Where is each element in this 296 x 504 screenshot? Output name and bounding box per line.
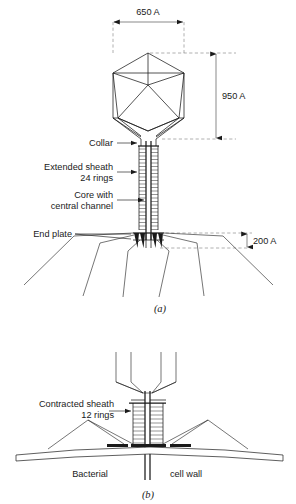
- label-end-plate: End plate: [33, 229, 131, 239]
- panel-b-caption: (b): [142, 489, 155, 501]
- label-cell-wall: cell wall: [170, 469, 202, 479]
- phage-collar: [138, 139, 159, 146]
- tail-fibers-b: [116, 352, 176, 393]
- label-extended-sheath-line1: Extended sheath: [44, 162, 113, 172]
- label-core-line2: central channel: [51, 201, 113, 211]
- label-end-plate-text: End plate: [33, 229, 72, 239]
- dimension-head-height-label: 950 A: [222, 91, 246, 101]
- dimension-head-width: 650 A: [114, 7, 183, 22]
- contracted-sheath: [133, 403, 163, 447]
- phage-figure: 650 A 950 A: [0, 0, 296, 504]
- sheath-rings-left: [139, 149, 146, 230]
- label-bacterial: Bacterial: [72, 469, 108, 479]
- baseplate-feet-b: [107, 444, 191, 447]
- label-contracted-sheath: Contracted sheath 12 rings: [39, 399, 131, 420]
- dimension-base-height-label: 200 A: [253, 236, 277, 246]
- label-contracted-sheath-line1: Contracted sheath: [39, 399, 114, 409]
- label-extended-sheath: Extended sheath 24 rings: [44, 162, 137, 183]
- tail-fibers-a: [24, 233, 273, 297]
- label-contracted-sheath-line2: 12 rings: [81, 410, 114, 420]
- dimension-head-width-label: 650 A: [136, 7, 160, 17]
- dimension-base-height: 200 A: [247, 234, 277, 247]
- sheath-rings-right: [151, 149, 158, 230]
- contracted-collar: [129, 400, 166, 403]
- panel-a: 650 A 950 A: [24, 7, 277, 315]
- panel-a-caption: (a): [154, 303, 167, 315]
- contracted-core: [145, 391, 150, 480]
- figure-canvas: 650 A 950 A: [0, 0, 296, 504]
- label-collar-text: Collar: [89, 138, 113, 148]
- label-extended-sheath-line2: 24 rings: [80, 173, 113, 183]
- label-collar: Collar: [89, 138, 137, 148]
- label-core-line1: Core with: [74, 190, 113, 200]
- contracted-sheath-rings: [133, 407, 163, 446]
- phage-head: [113, 53, 184, 139]
- width-extension-lines: [113, 22, 184, 53]
- extended-sheath: [139, 141, 158, 240]
- end-plate: [133, 233, 164, 248]
- panel-b: Contracted sheath 12 rings Bacterial cel…: [16, 352, 283, 501]
- label-core: Core with central channel: [51, 190, 144, 211]
- dimension-head-height: 950 A: [216, 54, 246, 138]
